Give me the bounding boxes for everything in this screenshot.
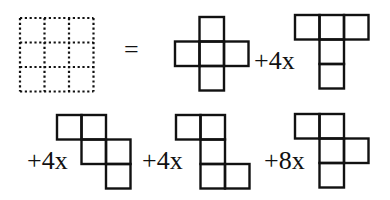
net-square: [201, 164, 226, 189]
s-l-net-shape: [176, 115, 250, 189]
net-square: [295, 15, 320, 40]
equals-sign: =: [124, 35, 139, 64]
net-square: [57, 115, 82, 140]
count-label: +8x: [264, 146, 305, 175]
count-label: +4x: [142, 146, 183, 175]
net-square: [200, 17, 225, 42]
net-square: [225, 164, 250, 189]
net-square: [320, 64, 345, 89]
count-label: +4x: [254, 46, 295, 75]
net-square: [200, 42, 225, 67]
diagram-canvas: = +4x+4x+4x+8x: [0, 0, 390, 200]
count-label: +4x: [27, 146, 68, 175]
dotted-3x3-grid: [20, 18, 94, 92]
net-square: [320, 40, 345, 65]
staircase-net-shape: [57, 115, 131, 189]
net-shapes: +4x+4x+4x+8x: [27, 15, 369, 189]
net-square: [201, 115, 226, 140]
net-square: [175, 42, 200, 67]
net-square: [320, 114, 345, 139]
net-square: [224, 42, 249, 67]
f-net-shape: [295, 114, 369, 188]
cross-net-shape: [175, 17, 249, 91]
net-square: [344, 15, 369, 40]
net-square: [200, 66, 225, 91]
net-square: [344, 139, 369, 164]
net-square: [320, 139, 345, 164]
net-square: [82, 140, 107, 165]
net-square: [320, 163, 345, 188]
net-square: [320, 15, 345, 40]
net-square: [82, 115, 107, 140]
net-square: [295, 114, 320, 139]
net-square: [176, 115, 201, 140]
net-square: [106, 164, 131, 189]
net-square: [106, 140, 131, 165]
net-square: [201, 140, 226, 165]
t-net-shape: [295, 15, 369, 89]
